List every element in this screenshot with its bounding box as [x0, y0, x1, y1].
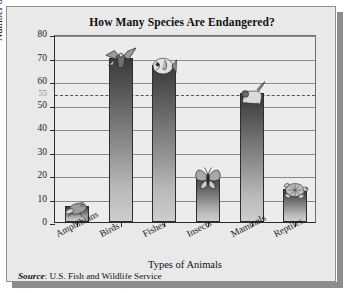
gridline-40	[55, 130, 315, 131]
y-tick-10	[50, 201, 55, 202]
y-tick-20	[50, 177, 55, 178]
source-note: Source: U.S. Fish and Wildlife Service	[18, 271, 162, 281]
bar-mammals	[240, 93, 264, 222]
y-tick-label-0: 0	[21, 218, 47, 228]
y-tick-30	[50, 154, 55, 155]
y-tick-50	[50, 107, 55, 108]
plot-area	[54, 35, 316, 223]
chart-figure: How Many Species Are Endangered? Number …	[6, 6, 336, 282]
x-tick-birds	[121, 222, 122, 227]
y-tick-label-80: 80	[21, 30, 47, 40]
bar-birds	[109, 58, 133, 223]
bar-insects	[196, 175, 220, 222]
gridline-80	[55, 36, 315, 37]
reference-line-55	[55, 95, 315, 96]
figure-shadow-bottom	[12, 282, 343, 288]
gridline-70	[55, 60, 315, 61]
y-tick-label-40: 40	[21, 124, 47, 134]
gridline-50	[55, 107, 315, 108]
y-tick-label-30: 30	[21, 148, 47, 158]
y-tick-80	[50, 36, 55, 37]
gridline-20	[55, 177, 315, 178]
source-label: Source	[18, 271, 45, 281]
y-tick-label-50: 50	[21, 101, 47, 111]
y-tick-0	[50, 224, 55, 225]
source-text: : U.S. Fish and Wildlife Service	[45, 271, 162, 281]
gridline-60	[55, 83, 315, 84]
y-tick-70	[50, 60, 55, 61]
y-tick-40	[50, 130, 55, 131]
gridline-10	[55, 201, 315, 202]
figure-shadow-right	[337, 12, 343, 288]
x-axis-title: Types of Animals	[54, 259, 316, 270]
y-tick-60	[50, 83, 55, 84]
x-category-label-birds: Birds	[98, 221, 121, 239]
bar-fishes	[152, 65, 176, 222]
y-tick-label-20: 20	[21, 171, 47, 181]
y-tick-label-10: 10	[21, 195, 47, 205]
y-tick-label-55: 55	[21, 89, 47, 98]
chart-title: How Many Species Are Endangered?	[7, 16, 335, 28]
gridline-30	[55, 154, 315, 155]
y-tick-label-70: 70	[21, 54, 47, 64]
y-axis-title: Number of Species	[0, 0, 4, 61]
y-tick-label-60: 60	[21, 77, 47, 87]
